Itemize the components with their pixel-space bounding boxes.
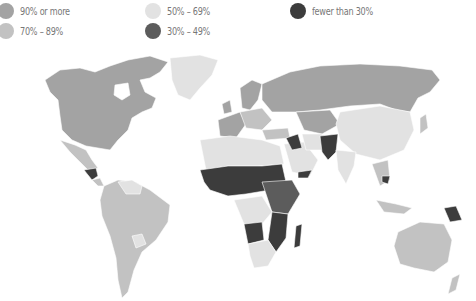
region-indonesia xyxy=(376,200,412,214)
region-central-asia xyxy=(296,110,340,134)
legend-swatch xyxy=(290,3,306,19)
legend-label: 70% – 89% xyxy=(20,25,63,38)
legend-label: 30% – 49% xyxy=(167,25,210,38)
legend-label: 90% or more xyxy=(20,5,70,18)
legend-swatch xyxy=(145,23,161,39)
world-map xyxy=(0,44,476,301)
legend-item-70-89: 70% – 89% xyxy=(0,23,73,39)
region-angola xyxy=(244,222,264,244)
legend-item-50-69: 50% – 69% xyxy=(145,3,220,19)
region-europe-central xyxy=(240,108,272,130)
region-papua-new-guinea xyxy=(444,206,462,222)
legend-label: 50% – 69% xyxy=(167,5,210,18)
legend-item-30-49: 30% – 49% xyxy=(145,23,220,39)
region-uk xyxy=(222,100,232,114)
region-central-america xyxy=(84,168,98,180)
region-greenland xyxy=(170,55,218,100)
region-australia xyxy=(394,222,452,272)
legend-swatch xyxy=(0,23,14,39)
region-india xyxy=(336,150,356,184)
legend-swatch xyxy=(145,3,161,19)
region-russia xyxy=(262,64,440,112)
legend-item-under-30: fewer than 30% xyxy=(290,3,386,19)
region-afghanistan-pakistan xyxy=(320,134,338,160)
region-central-africa xyxy=(234,196,272,224)
legend-swatch xyxy=(0,3,14,19)
region-scandinavia xyxy=(240,80,262,110)
region-central-america-south xyxy=(92,178,104,186)
map-legend: 90% or more 70% – 89% 50% – 69% 30% – 49… xyxy=(0,0,476,44)
legend-label: fewer than 30% xyxy=(312,5,373,18)
region-north-america xyxy=(45,56,168,150)
region-madagascar xyxy=(294,224,302,248)
region-japan xyxy=(420,114,428,134)
region-new-zealand xyxy=(448,274,460,294)
legend-item-90-plus: 90% or more xyxy=(0,3,81,19)
